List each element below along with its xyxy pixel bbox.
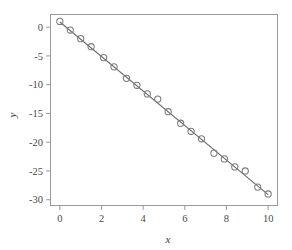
x-axis-label: x [165,233,171,245]
figure-background [0,0,292,250]
x-tick-label: 4 [141,213,147,224]
x-tick-label: 0 [57,213,62,224]
x-tick-label: 6 [182,213,187,224]
scatter-plot: 0246810 0-5-10-15-20-25-30 x y [0,0,292,250]
y-tick-label: -25 [29,166,43,177]
x-tick-label: 10 [263,213,274,224]
y-tick-label: -10 [29,79,43,90]
y-tick-label: -15 [29,108,43,119]
y-axis-label: y [6,112,18,118]
y-tick-label: 0 [38,22,43,33]
chart-figure: 0246810 0-5-10-15-20-25-30 x y [0,0,292,250]
y-tick-label: -30 [29,194,43,205]
x-tick-label: 8 [224,213,229,224]
y-tick-label: -5 [34,51,43,62]
x-tick-label: 2 [99,213,104,224]
y-tick-label: -20 [29,137,43,148]
